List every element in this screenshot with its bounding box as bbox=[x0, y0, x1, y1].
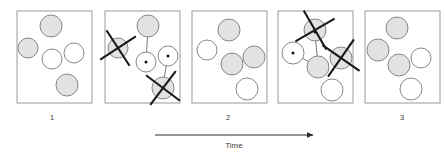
particle-time-evolution-figure: 123 Time bbox=[0, 0, 445, 163]
shaded-particle-circle bbox=[56, 74, 78, 96]
connector-endpoint-dot bbox=[145, 61, 148, 64]
time-axis-label: Time bbox=[225, 141, 243, 150]
panels-layer: 123 bbox=[17, 10, 440, 122]
figure-canvas: 123 Time bbox=[0, 0, 445, 163]
panel-number-label: 1 bbox=[50, 113, 54, 122]
connector-endpoint-dot bbox=[292, 52, 295, 55]
open-particle-circle bbox=[42, 49, 62, 69]
shaded-particle-circle bbox=[243, 46, 265, 68]
panel-number-label: 2 bbox=[226, 113, 230, 122]
panel-state-2: 2 bbox=[192, 11, 267, 122]
open-particle-circle bbox=[236, 78, 258, 100]
shaded-particle-circle bbox=[40, 15, 62, 37]
shaded-particle-circle bbox=[137, 15, 159, 37]
shaded-particle-circle bbox=[386, 17, 408, 39]
time-axis-group: Time bbox=[155, 135, 313, 150]
panel-transition-2 bbox=[278, 10, 360, 103]
shaded-particle-circle bbox=[307, 56, 329, 78]
open-particle-circle bbox=[64, 43, 84, 63]
shaded-particle-circle bbox=[367, 39, 389, 61]
connector-endpoint-dot bbox=[167, 55, 170, 58]
shaded-particle-circle bbox=[218, 19, 240, 41]
panel-state-3: 3 bbox=[365, 11, 440, 122]
shaded-particle-circle bbox=[388, 54, 410, 76]
open-particle-circle bbox=[411, 48, 431, 68]
panel-number-label: 3 bbox=[400, 113, 404, 122]
shaded-particle-circle bbox=[18, 38, 38, 58]
open-particle-circle bbox=[197, 40, 217, 60]
open-particle-circle bbox=[321, 79, 343, 101]
shaded-particle-circle bbox=[221, 53, 243, 75]
panel-state-1: 1 bbox=[17, 11, 92, 122]
open-particle-circle bbox=[400, 78, 422, 100]
panel-transition-1 bbox=[100, 11, 180, 105]
